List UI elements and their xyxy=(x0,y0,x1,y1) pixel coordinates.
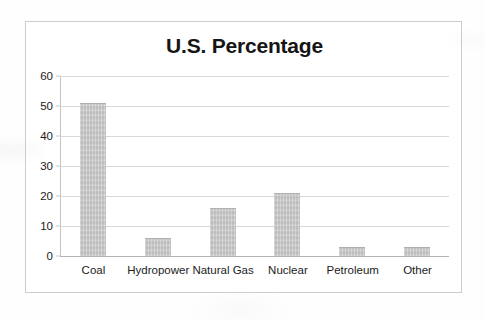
y-tick-label: 0 xyxy=(47,250,53,262)
x-axis-category-label: Other xyxy=(385,264,450,276)
y-tick-label: 50 xyxy=(40,100,53,112)
bar-slot xyxy=(61,76,126,256)
y-tick-mark xyxy=(56,106,60,107)
plot-area: 6050403020100 xyxy=(60,76,449,256)
y-tick-mark xyxy=(56,256,60,257)
bar-slot xyxy=(126,76,191,256)
y-tick-label: 20 xyxy=(40,190,53,202)
y-tick-mark xyxy=(56,136,60,137)
y-tick-mark xyxy=(56,166,60,167)
chart-title: U.S. Percentage xyxy=(26,34,463,58)
bar-slot xyxy=(190,76,255,256)
y-tick-label: 40 xyxy=(40,130,53,142)
y-tick-mark xyxy=(56,226,60,227)
bar[interactable] xyxy=(145,238,171,256)
y-tick-label: 30 xyxy=(40,160,53,172)
bar[interactable] xyxy=(274,193,300,256)
y-tick-label: 60 xyxy=(40,70,53,82)
y-tick-label: 10 xyxy=(40,220,53,232)
chart-frame: U.S. Percentage 6050403020100 CoalHydrop… xyxy=(25,21,462,293)
y-tick-mark xyxy=(56,196,60,197)
bar-slot xyxy=(255,76,320,256)
bar[interactable] xyxy=(210,208,236,256)
bar[interactable] xyxy=(80,103,106,256)
x-axis-category-label: Nuclear xyxy=(255,264,320,276)
bar-slot xyxy=(384,76,449,256)
bar-slot xyxy=(320,76,385,256)
axis-baseline xyxy=(60,256,449,257)
x-axis-category-label: Natural Gas xyxy=(191,264,256,276)
x-axis-category-label: Coal xyxy=(61,264,126,276)
bars-layer xyxy=(61,76,449,256)
x-axis-category-label: Petroleum xyxy=(320,264,385,276)
x-axis-category-label: Hydropower xyxy=(126,264,191,276)
bar[interactable] xyxy=(404,247,430,256)
y-tick-mark xyxy=(56,76,60,77)
scanned-page: U.S. Percentage 6050403020100 CoalHydrop… xyxy=(0,0,485,320)
bar[interactable] xyxy=(339,247,365,256)
x-axis-labels: CoalHydropowerNatural GasNuclearPetroleu… xyxy=(61,264,450,276)
